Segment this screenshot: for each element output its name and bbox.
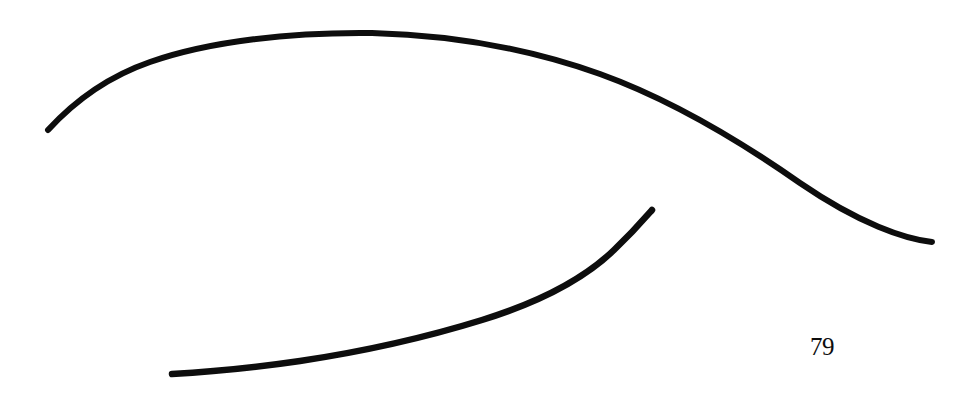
figure-page: 79 [0, 0, 973, 399]
page-number: 79 [810, 334, 834, 359]
